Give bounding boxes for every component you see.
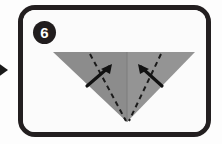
figure-description: Downward pointing triangle of folded pap… <box>0 0 1 1</box>
triangle-left-half <box>53 52 127 122</box>
step-panel: 6 <box>18 5 211 137</box>
diagram-canvas: 6 Downward pointing triangle of folded p… <box>0 0 222 144</box>
previous-step-arrow-icon <box>0 60 10 80</box>
step-number-badge: 6 <box>33 21 56 44</box>
step-panel-inner: 6 <box>23 10 206 132</box>
